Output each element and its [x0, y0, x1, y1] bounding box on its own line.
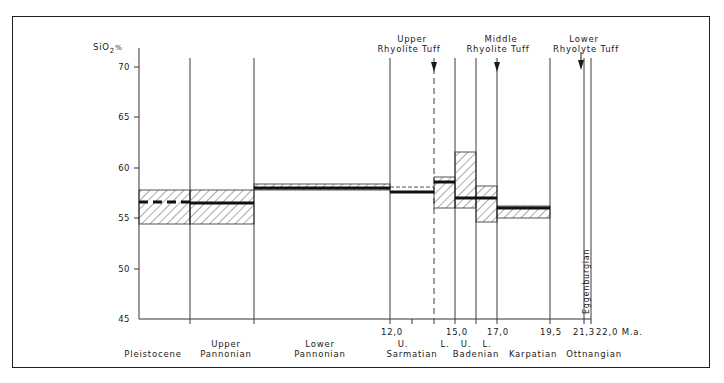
stage-lower-pannonian-line2: Pannonian	[294, 349, 345, 359]
upper-tuff-arrow-icon	[431, 62, 437, 72]
badenian-lower-mark-1: L.	[440, 339, 449, 349]
badenian-lower-mark-2: L.	[482, 339, 491, 349]
x-tick-213: 21,3	[573, 327, 595, 337]
x-tick-15: 15,0	[446, 327, 468, 337]
stage-lower-pannonian-line1: Lower	[305, 339, 334, 349]
x-tick-17: 17,0	[487, 327, 509, 337]
x-axis	[139, 319, 591, 324]
tuff-arrows	[431, 52, 584, 72]
stage-upper-pannonian-line2: Pannonian	[200, 349, 251, 359]
stage-ottnangian: Ottnangian	[566, 349, 622, 359]
range-pleistocene	[139, 190, 190, 224]
upper-tuff-label-line2: Rhyolite Tuff	[377, 44, 440, 54]
y-tick-60: 60	[108, 163, 130, 173]
chart-plot	[0, 0, 724, 383]
stage-upper-pannonian-line1: Upper	[211, 339, 241, 349]
y-tick-65: 65	[108, 112, 130, 122]
y-axis-title: SiO2%	[93, 42, 123, 56]
lower-tuff-label-line1: Lower	[569, 34, 598, 44]
stage-karpatian: Karpatian	[509, 349, 557, 359]
lower-tuff-arrow-icon	[578, 60, 584, 70]
stage-pleistocene: Pleistocene	[124, 349, 181, 359]
upper-tuff-label-line1: Upper	[397, 34, 427, 44]
x-tick-22: 22,0 M.a.	[596, 327, 643, 337]
eggenburgian-label: Eggenburgian	[582, 249, 591, 314]
y-tick-50: 50	[108, 264, 130, 274]
middle-tuff-arrow-icon	[494, 62, 500, 72]
range-upper-pannonian	[190, 190, 254, 224]
lower-tuff-label-line2: Rhyolyte Tuff	[553, 44, 619, 54]
range-karpatian	[476, 186, 497, 222]
stage-sarmatian: Sarmatian	[387, 349, 438, 359]
y-axis	[134, 48, 139, 319]
y-tick-70: 70	[108, 62, 130, 72]
middle-tuff-label-line1: Middle	[485, 34, 518, 44]
stage-badenian: Badenian	[453, 349, 499, 359]
sarmatian-upper-mark: U.	[398, 339, 409, 349]
x-tick-12: 12,0	[381, 327, 403, 337]
range-lower-badenian	[455, 152, 476, 208]
y-tick-55: 55	[108, 213, 130, 223]
badenian-upper-mark: U.	[461, 339, 472, 349]
y-tick-45: 45	[108, 314, 130, 324]
x-tick-195: 19,5	[540, 327, 562, 337]
middle-tuff-label-line2: Rhyolite Tuff	[466, 44, 529, 54]
